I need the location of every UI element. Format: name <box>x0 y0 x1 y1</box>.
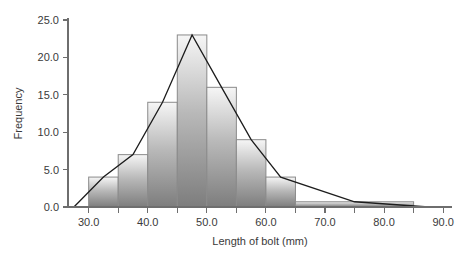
y-tick-label: 20.0 <box>38 51 59 63</box>
y-tick-label: 10.0 <box>38 126 59 138</box>
histogram-bar <box>266 177 296 207</box>
histogram-bar <box>236 140 266 207</box>
x-tick-label: 30.0 <box>78 216 99 228</box>
histogram-chart: 0.05.010.015.020.025.0 30.040.050.060.07… <box>0 0 470 253</box>
histogram-bar <box>89 177 119 207</box>
x-axis-title: Length of bolt (mm) <box>212 235 307 247</box>
histogram-bar <box>148 102 178 207</box>
x-tick-label: 40.0 <box>137 216 158 228</box>
x-tick-label: 90.0 <box>432 216 453 228</box>
x-tick-label: 70.0 <box>314 216 335 228</box>
chart-canvas: 0.05.010.015.020.025.0 30.040.050.060.07… <box>0 0 470 253</box>
histogram-bar <box>177 35 207 207</box>
y-tick-label: 15.0 <box>38 89 59 101</box>
x-tick-label: 50.0 <box>196 216 217 228</box>
y-tick-label: 5.0 <box>44 164 59 176</box>
y-axis-title: Frequency <box>12 87 24 139</box>
x-tick-label: 60.0 <box>255 216 276 228</box>
y-tick-label: 25.0 <box>38 14 59 26</box>
y-tick-label: 0.0 <box>44 201 59 213</box>
x-tick-label: 80.0 <box>373 216 394 228</box>
